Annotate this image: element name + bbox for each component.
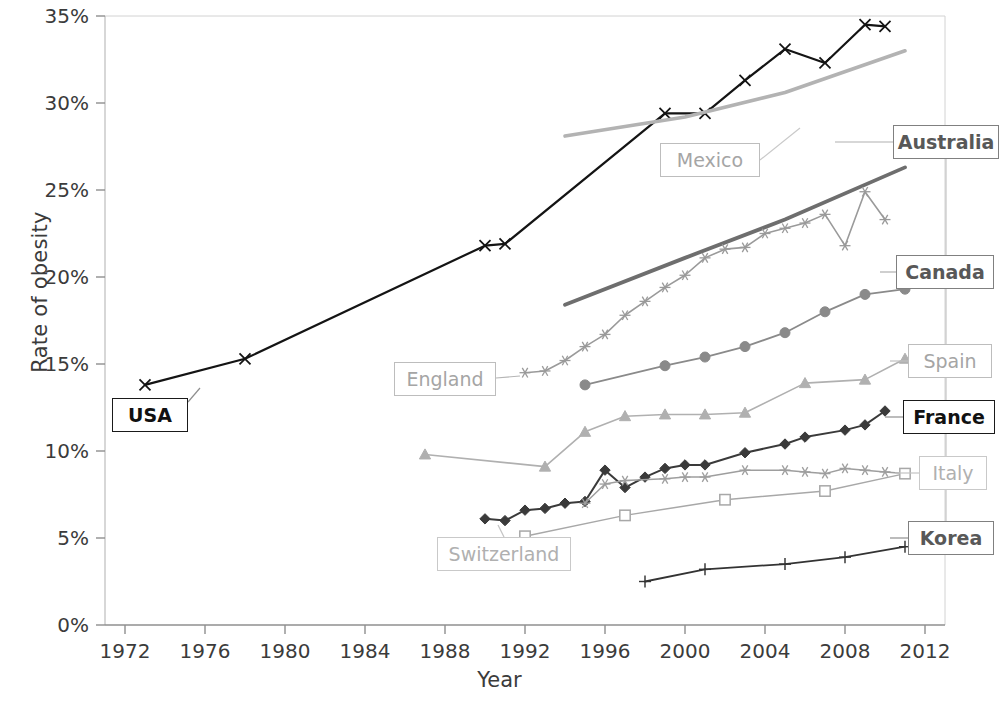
series-group xyxy=(140,19,947,587)
data-point-marker xyxy=(740,465,751,475)
callout-leader-line xyxy=(498,525,504,537)
series-korea xyxy=(639,541,911,588)
data-point-marker xyxy=(740,448,750,458)
y-tick-label: 35% xyxy=(45,4,89,28)
callout-england[interactable]: England xyxy=(394,362,496,396)
callout-leader-line xyxy=(760,128,800,160)
data-point-marker xyxy=(680,472,691,482)
data-point-marker xyxy=(639,576,651,588)
data-point-marker xyxy=(780,328,790,338)
callout-leader-line xyxy=(188,388,200,402)
callout-usa[interactable]: USA xyxy=(112,398,188,432)
data-point-marker xyxy=(520,505,530,515)
data-point-marker xyxy=(880,215,891,225)
data-point-marker xyxy=(560,498,570,508)
data-point-marker xyxy=(579,426,590,436)
series-mexico xyxy=(565,51,905,136)
series-canada xyxy=(580,284,910,390)
x-tick-label: 2008 xyxy=(820,639,871,663)
data-point-marker xyxy=(800,218,811,228)
callout-italy[interactable]: Italy xyxy=(919,456,987,490)
x-tick-label: 1980 xyxy=(260,639,311,663)
data-point-marker xyxy=(900,468,910,478)
series-line xyxy=(645,547,905,582)
data-point-marker xyxy=(839,551,851,563)
series-line xyxy=(565,51,905,136)
series-england xyxy=(520,187,891,377)
data-point-marker xyxy=(780,224,791,234)
series-line xyxy=(525,474,905,537)
series-line xyxy=(525,192,885,373)
data-point-marker xyxy=(700,352,710,362)
data-point-marker xyxy=(660,463,670,473)
x-tick-label: 1984 xyxy=(340,639,391,663)
callout-leader-line xyxy=(496,376,520,378)
series-line xyxy=(145,25,885,385)
series-line xyxy=(565,167,905,304)
data-point-marker xyxy=(880,467,891,477)
callout-switzerland[interactable]: Switzerland xyxy=(437,537,571,571)
data-point-marker xyxy=(700,472,711,482)
data-point-marker xyxy=(540,366,551,376)
data-point-marker xyxy=(840,425,850,435)
data-point-marker xyxy=(480,514,490,524)
data-point-marker xyxy=(780,44,791,55)
data-point-marker xyxy=(780,439,790,449)
x-tick-label: 2004 xyxy=(740,639,791,663)
callout-canada[interactable]: Canada xyxy=(896,255,994,289)
x-tick-label: 1972 xyxy=(100,639,151,663)
x-tick-label: 1988 xyxy=(420,639,471,663)
chart-canvas: 0%5%10%15%20%25%30%35%197219761980198419… xyxy=(0,0,999,701)
callout-mexico[interactable]: Mexico xyxy=(660,143,760,177)
data-point-marker xyxy=(740,75,751,86)
data-point-marker xyxy=(640,472,650,482)
series-switzerland xyxy=(520,468,910,541)
x-tick-label: 1992 xyxy=(500,639,551,663)
series-australia xyxy=(565,167,905,304)
data-point-marker xyxy=(520,368,531,378)
callout-korea[interactable]: Korea xyxy=(908,521,994,555)
data-point-marker xyxy=(419,449,430,459)
data-point-marker xyxy=(780,465,791,475)
obesity-rate-line-chart: 0%5%10%15%20%25%30%35%197219761980198419… xyxy=(0,0,999,701)
y-tick-label: 10% xyxy=(45,439,89,463)
callout-france[interactable]: France xyxy=(903,400,995,434)
data-point-marker xyxy=(860,465,871,475)
callout-spain[interactable]: Spain xyxy=(908,344,992,378)
data-point-marker xyxy=(660,474,671,484)
data-point-marker xyxy=(660,361,670,371)
y-tick-label: 0% xyxy=(57,613,89,637)
y-tick-label: 30% xyxy=(45,91,89,115)
data-point-marker xyxy=(820,210,831,220)
data-point-marker xyxy=(700,460,710,470)
data-point-marker xyxy=(840,241,851,251)
data-point-marker xyxy=(720,495,730,505)
data-point-marker xyxy=(820,57,831,68)
x-tick-label: 1996 xyxy=(580,639,631,663)
y-axis-title: Rate of obesity xyxy=(28,192,52,392)
data-point-marker xyxy=(779,558,791,570)
series-line xyxy=(585,289,905,385)
data-point-marker xyxy=(820,486,830,496)
x-tick-label: 2000 xyxy=(660,639,711,663)
x-axis-title: Year xyxy=(0,668,999,692)
data-point-marker xyxy=(620,510,630,520)
data-point-marker xyxy=(580,380,590,390)
data-point-marker xyxy=(540,503,550,513)
data-point-marker xyxy=(740,342,750,352)
callout-australia[interactable]: Australia xyxy=(893,125,999,159)
data-point-marker xyxy=(580,496,590,506)
data-point-marker xyxy=(840,464,851,474)
x-tick-label: 1976 xyxy=(180,639,231,663)
data-point-marker xyxy=(500,515,510,525)
data-point-marker xyxy=(820,307,830,317)
y-tick-label: 5% xyxy=(57,526,89,550)
data-point-marker xyxy=(820,469,831,479)
data-point-marker xyxy=(800,467,811,477)
x-tick-label: 2012 xyxy=(900,639,951,663)
data-point-marker xyxy=(680,460,690,470)
data-point-marker xyxy=(699,563,711,575)
data-point-marker xyxy=(800,432,810,442)
data-point-marker xyxy=(860,289,870,299)
